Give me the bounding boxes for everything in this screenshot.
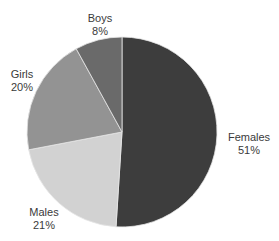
slice-label-boys: Boys 8% bbox=[88, 12, 112, 38]
label-percent: 20% bbox=[11, 81, 34, 94]
label-name: Males bbox=[29, 206, 58, 219]
pie-slice-females bbox=[116, 37, 217, 227]
label-percent: 51% bbox=[228, 144, 270, 157]
slice-label-girls: Girls 20% bbox=[11, 68, 34, 94]
pie-chart bbox=[0, 0, 279, 241]
label-percent: 21% bbox=[29, 219, 58, 232]
slice-label-females: Females 51% bbox=[228, 131, 270, 157]
label-name: Girls bbox=[11, 68, 34, 81]
label-name: Females bbox=[228, 131, 270, 144]
slice-label-males: Males 21% bbox=[29, 206, 58, 232]
label-percent: 8% bbox=[88, 25, 112, 38]
label-name: Boys bbox=[88, 12, 112, 25]
pie-slices bbox=[27, 37, 217, 227]
